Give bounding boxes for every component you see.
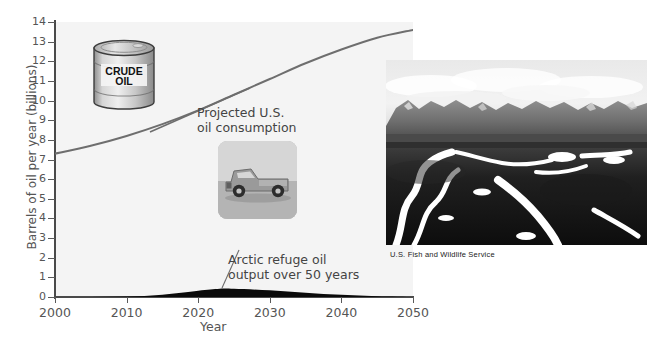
y-axis-tick-label: 3: [0, 232, 46, 243]
y-axis-tick-mark: [48, 218, 55, 219]
y-axis-tick-mark: [48, 120, 55, 121]
x-axis-label: Year: [200, 319, 226, 334]
y-axis-tick-label: 5: [0, 193, 46, 204]
x-axis-tick-mark: [413, 297, 414, 303]
y-axis-tick-label: 10: [0, 95, 46, 106]
y-axis-tick-mark: [48, 179, 55, 180]
y-axis-tick-label: 9: [0, 114, 46, 125]
y-axis-tick-label: 8: [0, 134, 46, 145]
x-axis-tick-mark: [198, 297, 199, 303]
y-axis-tick-mark: [48, 61, 55, 62]
barrel-label-line-2: OIL: [115, 75, 133, 87]
pickup-truck-illustration: [218, 141, 297, 219]
annotation-arctic-output: Arctic refuge oil output over 50 years: [228, 252, 359, 283]
y-axis-tick-mark: [48, 238, 55, 239]
y-axis-tick-label: 4: [0, 212, 46, 223]
x-axis-tick-label: 2010: [97, 305, 157, 320]
photo-credit-caption: U.S. Fish and Wildlife Service: [390, 250, 495, 259]
arctic-tundra-illustration: [386, 60, 647, 245]
x-axis-tick-mark: [55, 297, 56, 303]
y-axis-tick-mark: [48, 81, 55, 82]
pickup-truck-photo: [218, 141, 297, 219]
x-axis-tick-label: 2050: [383, 305, 443, 320]
y-axis-tick-mark: [48, 101, 55, 102]
x-axis-tick-label: 2040: [311, 305, 371, 320]
x-axis-tick-label: 2020: [168, 305, 228, 320]
x-axis-tick-mark: [270, 297, 271, 303]
x-axis-tick-label: 2000: [25, 305, 85, 320]
x-axis-tick-mark: [127, 297, 128, 303]
y-axis-tick-label: 7: [0, 154, 46, 165]
y-axis-tick-label: 11: [0, 75, 46, 86]
y-axis-tick-label: 0: [0, 291, 46, 302]
annotation-line-2: oil consumption: [197, 120, 297, 135]
y-axis-tick-mark: [48, 160, 55, 161]
arctic-tundra-photo: [386, 60, 647, 245]
arctic-refuge-area: [55, 289, 413, 297]
annotation-line-2: output over 50 years: [228, 267, 359, 282]
y-axis-tick-mark: [48, 277, 55, 278]
y-axis-tick-mark: [48, 199, 55, 200]
y-axis-tick-mark: [48, 140, 55, 141]
y-axis-tick-label: 12: [0, 55, 46, 66]
y-axis-label: Barrels of oil per year (billions): [25, 37, 39, 277]
crude-oil-barrel-icon: CRUDE OIL: [88, 37, 160, 113]
annotation-line-1: Arctic refuge oil: [228, 252, 359, 267]
y-axis-tick-mark: [48, 42, 55, 43]
x-axis-tick-label: 2030: [240, 305, 300, 320]
y-axis-tick-label: 6: [0, 173, 46, 184]
y-axis-tick-mark: [48, 22, 55, 23]
y-axis-tick-label: 14: [0, 16, 46, 27]
y-axis-tick-label: 1: [0, 271, 46, 282]
y-axis-tick-mark: [48, 258, 55, 259]
y-axis-tick-mark: [48, 297, 55, 298]
annotation-projected-consumption: Projected U.S. oil consumption: [197, 105, 297, 136]
y-axis-tick-label: 13: [0, 36, 46, 47]
y-axis-tick-label: 2: [0, 252, 46, 263]
annotation-line-1: Projected U.S.: [197, 105, 297, 120]
x-axis-tick-mark: [341, 297, 342, 303]
